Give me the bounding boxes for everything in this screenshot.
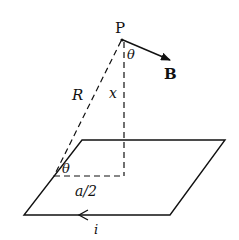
current-loop [24, 140, 225, 215]
label-b-field: B [164, 65, 177, 83]
label-theta-bottom: θ [62, 161, 70, 176]
label-r: R [71, 86, 83, 104]
label-x: x [109, 85, 117, 101]
label-point-p: P [115, 19, 125, 37]
label-current: i [94, 222, 98, 237]
square-loop-field-diagram: P B θ R x θ a/2 i [0, 0, 239, 240]
label-theta-top: θ [127, 47, 135, 62]
label-half-side: a/2 [75, 183, 97, 199]
slant-distance-line [54, 41, 121, 176]
